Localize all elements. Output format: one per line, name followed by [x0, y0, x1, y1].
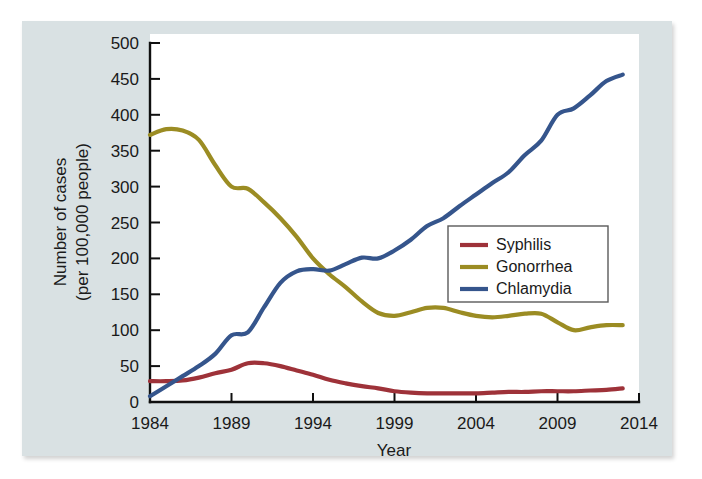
y-axis-tick-marks	[150, 43, 160, 402]
line-chart: 050100150200250300350400450500 198419891…	[0, 0, 702, 479]
y-tick-label: 300	[111, 178, 139, 197]
legend-label-syphilis: Syphilis	[496, 236, 551, 253]
y-tick-label: 0	[130, 393, 139, 412]
y-tick-label: 450	[111, 70, 139, 89]
y-axis-title-line1: Number of cases	[51, 158, 70, 287]
x-axis-tick-marks	[150, 393, 639, 402]
x-tick-label: 1989	[213, 414, 251, 433]
y-tick-label: 200	[111, 249, 139, 268]
y-tick-label: 500	[111, 34, 139, 53]
y-tick-label: 250	[111, 214, 139, 233]
y-tick-label: 100	[111, 321, 139, 340]
y-tick-label: 400	[111, 106, 139, 125]
y-tick-label: 150	[111, 285, 139, 304]
x-tick-label: 1984	[131, 414, 169, 433]
x-tick-label: 2014	[620, 414, 658, 433]
y-axis-tick-labels: 050100150200250300350400450500	[111, 34, 139, 412]
x-tick-label: 1999	[376, 414, 414, 433]
x-axis-tick-labels: 1984198919941999200420092014	[131, 414, 658, 433]
x-axis-title: Year	[377, 441, 412, 460]
x-tick-label: 2009	[539, 414, 577, 433]
series-line-syphilis	[150, 363, 623, 394]
y-axis-title-line2: (per 100,000 people)	[73, 143, 92, 301]
x-tick-label: 2004	[457, 414, 495, 433]
legend-label-gonorrhea: Gonorrhea	[496, 258, 573, 275]
y-tick-label: 50	[120, 357, 139, 376]
figure-container: 050100150200250300350400450500 198419891…	[0, 0, 702, 479]
x-tick-label: 1994	[294, 414, 332, 433]
chart-legend: SyphilisGonorrheaChlamydia	[448, 226, 608, 302]
y-tick-label: 350	[111, 142, 139, 161]
legend-label-chlamydia: Chlamydia	[496, 280, 572, 297]
